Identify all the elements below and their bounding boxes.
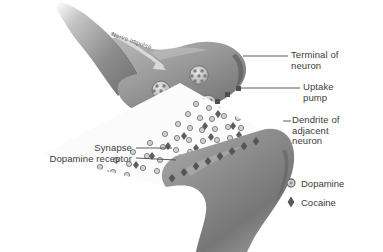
synapse-label: Synapse (34, 143, 132, 154)
dendrite-of-adjacent-neuron-label: Dendrite of adjacent neuron (292, 115, 340, 147)
uptake-pump-label: Uptake pump (303, 82, 334, 103)
dopamine-legend-icon (286, 178, 296, 188)
dopamine-receptor-label: Dopamine receptor (14, 154, 132, 165)
cocaine-legend-icon (286, 196, 296, 208)
legend-label-cocaine: Cocaine (301, 197, 336, 208)
vesicle (190, 66, 208, 84)
synapse-diagram: Nerve impulse Terminal of neuron Uptake … (0, 0, 383, 252)
terminal-of-neuron-label: Terminal of neuron (291, 50, 339, 71)
legend-label-dopamine: Dopamine (301, 178, 344, 189)
